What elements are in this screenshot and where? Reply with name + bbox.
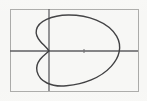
limacon-plot-figure bbox=[0, 0, 147, 101]
plot-screenshot bbox=[0, 0, 147, 101]
